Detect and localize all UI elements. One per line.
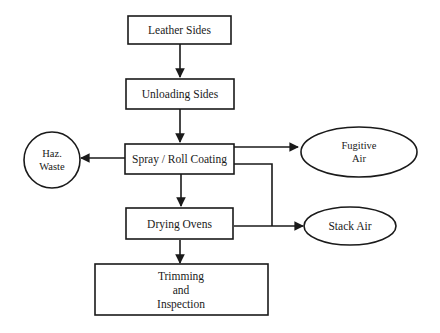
node-haz-waste-line2: Waste — [39, 161, 65, 172]
node-fugitive-air: Fugitive Air — [301, 127, 417, 177]
process-flow-diagram: Leather Sides Unloading Sides Spray / Ro… — [0, 0, 440, 333]
node-spray-roll-coating: Spray / Roll Coating — [125, 144, 234, 174]
node-leather-sides: Leather Sides — [128, 16, 231, 44]
node-stack-air: Stack Air — [304, 207, 396, 245]
node-leather-sides-label: Leather Sides — [148, 24, 211, 36]
node-trimming-line1: Trimming — [158, 270, 204, 283]
node-drying-ovens: Drying Ovens — [126, 208, 233, 239]
node-trimming-line3: Inspection — [157, 298, 205, 311]
node-unloading-sides-label: Unloading Sides — [142, 88, 219, 101]
node-fugitive-air-line1: Fugitive — [341, 140, 376, 151]
node-spray-roll-coating-label: Spray / Roll Coating — [132, 153, 227, 166]
node-haz-waste-line1: Haz. — [42, 148, 62, 159]
node-stack-air-label: Stack Air — [328, 220, 371, 232]
node-haz-waste: Haz. Waste — [24, 132, 80, 188]
node-unloading-sides: Unloading Sides — [126, 79, 234, 109]
node-trimming-inspection: Trimming and Inspection — [95, 264, 268, 315]
edge-spray-to-stack-air — [234, 164, 272, 226]
node-fugitive-air-line2: Air — [352, 153, 367, 164]
node-drying-ovens-label: Drying Ovens — [147, 218, 212, 231]
node-trimming-line2: and — [173, 284, 190, 296]
